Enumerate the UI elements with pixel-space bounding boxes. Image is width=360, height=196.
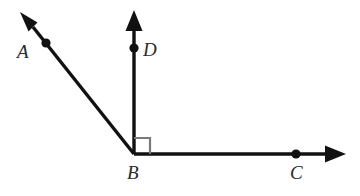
ray-bc-arrowhead <box>325 146 346 163</box>
right-angle-marker-icon <box>134 138 150 154</box>
point-a-dot <box>41 38 50 47</box>
point-label-b: B <box>127 163 139 182</box>
point-c-dot <box>291 149 300 158</box>
ray-bd-arrowhead <box>126 10 143 31</box>
point-label-c: C <box>290 163 303 182</box>
ray-ba <box>20 12 134 154</box>
geometry-figure: A D B C <box>0 0 360 196</box>
geometry-canvas <box>0 0 360 196</box>
point-label-d: D <box>143 40 157 59</box>
point-label-a: A <box>17 42 29 61</box>
ray-bc <box>134 146 346 163</box>
ray-bd <box>126 10 143 154</box>
point-d-dot <box>129 43 138 52</box>
